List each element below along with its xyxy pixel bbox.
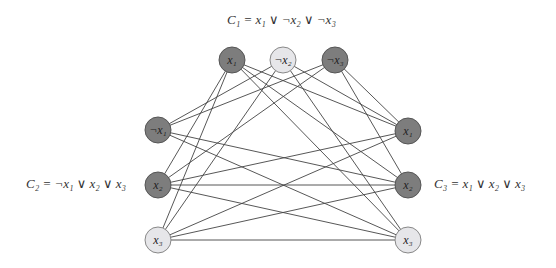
node-c3c: x₃ xyxy=(395,227,421,253)
node-c3b: x₂ xyxy=(395,172,421,198)
node-label: x₂ xyxy=(402,178,413,192)
nodes-group: x₁¬x₂¬x₃¬x₁x₂x₃x₁x₂x₃ xyxy=(145,47,421,253)
edge-c1b-c3c xyxy=(283,60,408,240)
node-label: ¬x₂ xyxy=(274,53,292,67)
edge-c1a-c3b xyxy=(232,60,408,185)
node-label: ¬x₁ xyxy=(149,123,167,137)
node-c2b: x₂ xyxy=(145,172,171,198)
node-label: x₁ xyxy=(402,124,413,138)
edge-c1b-c2a xyxy=(158,60,283,130)
node-label: x₃ xyxy=(402,233,413,247)
node-label: x₂ xyxy=(152,178,163,192)
node-c2a: ¬x₁ xyxy=(145,117,171,143)
node-c1c: ¬x₃ xyxy=(322,47,348,73)
node-label: ¬x₃ xyxy=(326,53,344,67)
clique-graph: x₁¬x₂¬x₃¬x₁x₂x₃x₁x₂x₃ xyxy=(0,0,556,268)
node-c2c: x₃ xyxy=(145,227,171,253)
node-c1b: ¬x₂ xyxy=(270,47,296,73)
node-c1a: x₁ xyxy=(219,47,245,73)
node-label: x₃ xyxy=(152,233,163,247)
edges-group xyxy=(158,60,408,240)
node-label: x₁ xyxy=(226,53,237,67)
edge-c1c-c3b xyxy=(335,60,408,185)
node-c3a: x₁ xyxy=(395,118,421,144)
